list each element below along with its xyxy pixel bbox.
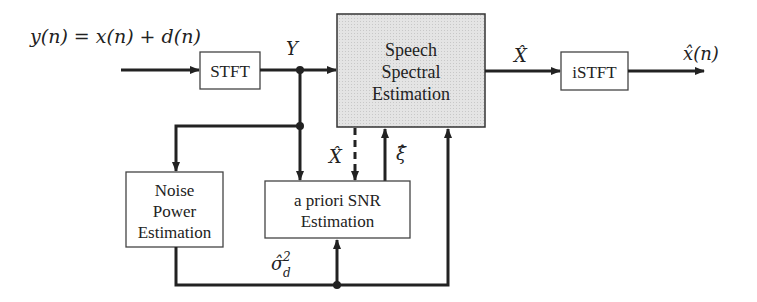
noise-line-2: Power (153, 202, 197, 221)
istft-label: iSTFT (572, 63, 617, 82)
xi-hat-label: ξ̂ (396, 143, 407, 164)
snr-line-2: Estimation (301, 212, 375, 231)
speech-line-2: Spectral (382, 62, 441, 82)
istft-block: iSTFT (561, 52, 628, 90)
junction-dot-y (296, 66, 304, 74)
snr-line-1: a priori SNR (294, 191, 382, 210)
noise-line-3: Estimation (138, 223, 212, 242)
sigma-superscript: 2 (282, 250, 291, 264)
x-hat-feedback-label: X̂ (327, 146, 343, 167)
speech-line-1: Speech (385, 40, 437, 60)
speech-enhancement-block-diagram: y(n) = x(n) + d(n) STFT Y Speech Spectra… (0, 0, 757, 302)
sigma-subscript: d (283, 266, 291, 280)
y-spectrum-label: Y (286, 38, 300, 59)
a-priori-snr-estimation-block: a priori SNR Estimation (265, 181, 410, 238)
noise-line-1: Noise (155, 181, 195, 200)
noise-power-estimation-block: Noise Power Estimation (126, 172, 223, 247)
speech-line-3: Estimation (372, 84, 450, 104)
output-signal-label: x̂(n) (683, 43, 719, 64)
stft-label: STFT (210, 62, 250, 81)
stft-block: STFT (200, 52, 260, 89)
speech-spectral-estimation-block: Speech Spectral Estimation (337, 14, 485, 127)
junction-dot-noise (333, 281, 341, 289)
x-hat-top-label: X̂ (512, 45, 528, 66)
y-to-noise-line (176, 126, 300, 171)
input-signal-label: y(n) = x(n) + d(n) (29, 25, 201, 47)
noise-variance-label: σ̂ 2 d (271, 250, 291, 280)
